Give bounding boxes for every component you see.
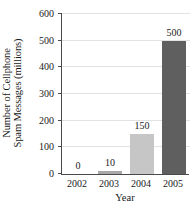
bar-value-label: 150	[126, 121, 158, 131]
x-axis-title: Year	[61, 192, 189, 204]
bar	[130, 134, 154, 174]
plot-area: 010150500	[61, 14, 189, 175]
chart-title-remnant	[62, 0, 122, 1]
bar-value-label: 10	[94, 158, 126, 168]
bar-value-label: 0	[62, 161, 94, 171]
y-axis-tick-label: 600	[26, 9, 54, 19]
y-axis-tick-label: 400	[26, 62, 54, 72]
y-axis-tick-label: 500	[26, 36, 54, 46]
bar-value-label: 500	[158, 28, 190, 38]
y-axis-tick-label: 200	[26, 116, 54, 126]
y-axis-tick-label: 300	[26, 89, 54, 99]
y-axis-tick-labels: 0100200300400500600	[26, 0, 54, 209]
bars-layer: 010150500	[62, 14, 190, 174]
y-axis-title: Number of Cellphone Spam Messages (milli…	[0, 9, 25, 177]
x-axis-tick-labels: 2002200320042005	[61, 178, 189, 191]
x-axis-tick-label: 2002	[61, 178, 93, 189]
x-axis-tick-label: 2004	[125, 178, 157, 189]
y-axis-tick-label: 0	[26, 169, 54, 179]
bar	[98, 171, 122, 174]
bar-group: 150	[126, 14, 158, 174]
bar-group: 10	[94, 14, 126, 174]
bar-chart-figure: Number of Cellphone Spam Messages (milli…	[0, 0, 191, 209]
y-axis-title-line-2: Spam Messages (millions)	[12, 39, 24, 148]
y-axis-tick-label: 100	[26, 142, 54, 152]
bar	[162, 41, 186, 174]
x-axis-tick-label: 2005	[157, 178, 189, 189]
x-axis-tick-label: 2003	[93, 178, 125, 189]
bar-group: 500	[158, 14, 190, 174]
y-axis-title-line-1: Number of Cellphone	[1, 48, 13, 138]
bar-group: 0	[62, 14, 94, 174]
